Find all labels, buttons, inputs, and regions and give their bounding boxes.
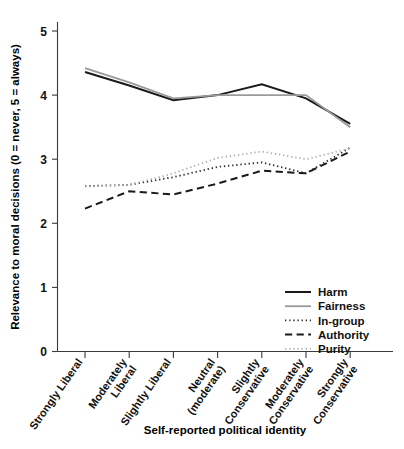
y-axis-title: Relevance to moral decisions (0 = never,… <box>9 44 21 330</box>
x-axis-title: Self-reported political identity <box>144 424 307 436</box>
y-tick-label: 1 <box>40 281 47 295</box>
series-line-purity <box>85 148 350 186</box>
y-tick-label: 5 <box>40 25 47 39</box>
legend-label-purity: Purity <box>318 343 351 355</box>
legend-label-in-group: In-group <box>318 315 365 327</box>
line-chart: 012345 Strongly LiberalModeratelyLiberal… <box>0 0 404 449</box>
legend-label-harm: Harm <box>318 286 347 298</box>
y-tick-label: 0 <box>40 345 47 359</box>
x-tick-label-line: Strongly Liberal <box>27 356 85 431</box>
chart-figure: 012345 Strongly LiberalModeratelyLiberal… <box>0 0 404 449</box>
x-tick-label: Strongly Liberal <box>27 356 85 431</box>
legend-label-fairness: Fairness <box>318 300 365 312</box>
y-axis-tick-labels: 012345 <box>40 25 47 360</box>
series-line-in-group <box>85 148 350 186</box>
x-axis-tick-labels: Strongly LiberalModeratelyLiberalSlightl… <box>27 356 360 432</box>
chart-legend: HarmFairnessIn-groupAuthorityPurity <box>285 286 370 355</box>
y-axis-ticks <box>52 31 58 352</box>
y-tick-label: 4 <box>40 89 47 103</box>
x-tick-label: Neutral(moderate) <box>175 356 227 417</box>
series-line-fairness <box>85 68 350 127</box>
y-tick-label: 2 <box>40 217 47 231</box>
series-line-authority <box>85 152 350 209</box>
data-series-group <box>85 68 350 208</box>
x-axis-ticks <box>85 352 350 359</box>
y-tick-label: 3 <box>40 153 47 167</box>
legend-label-authority: Authority <box>318 329 370 341</box>
